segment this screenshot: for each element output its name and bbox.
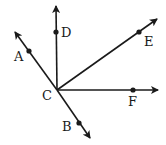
label-b: B	[62, 119, 72, 134]
point-e	[136, 29, 141, 34]
point-d	[53, 29, 58, 34]
geometry-diagram: ADEFBC	[0, 0, 166, 145]
ray-CE	[57, 19, 157, 90]
point-a	[26, 48, 31, 53]
label-a: A	[13, 49, 24, 64]
rays-group	[15, 6, 158, 138]
label-e: E	[144, 34, 154, 49]
points-group	[26, 29, 141, 125]
ray-CD	[56, 6, 57, 90]
label-f: F	[128, 94, 137, 109]
point-f	[130, 87, 135, 92]
point-b	[76, 120, 81, 125]
labels-group: ADEFBC	[13, 25, 154, 134]
label-c: C	[42, 88, 52, 103]
label-d: D	[61, 25, 71, 40]
